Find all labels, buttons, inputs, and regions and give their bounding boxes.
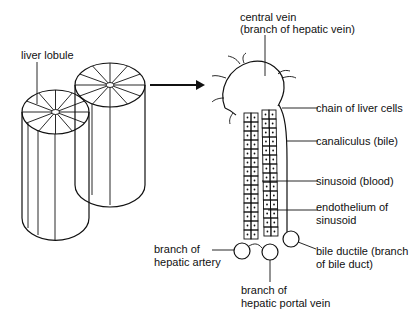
cell-nucleus: [247, 189, 249, 191]
cell-nucleus: [273, 213, 275, 215]
cell-nucleus: [272, 159, 274, 161]
cell-nucleus: [272, 132, 274, 134]
cell-nucleus: [273, 222, 275, 224]
cell-nucleus: [247, 126, 249, 128]
label-liver-lobule: liver lobule: [21, 49, 74, 62]
right-cell-chain: [262, 110, 278, 236]
back-lobule-spokes-central-vein-dot: [106, 83, 114, 88]
label-chain-of-liver-cells: chain of liver cells: [316, 102, 403, 115]
cell-nucleus: [272, 114, 274, 116]
cell-nucleus: [266, 177, 268, 179]
cell-nucleus: [247, 234, 249, 236]
cell-nucleus: [266, 195, 268, 197]
cell-nucleus: [254, 216, 256, 218]
cell-nucleus: [254, 144, 256, 146]
cell-nucleus: [254, 207, 256, 209]
cell-nucleus: [265, 159, 267, 161]
label-bile-ductile: bile ductile (branch: [316, 245, 408, 258]
label-bile-ductile-sub: of bile duct): [316, 258, 373, 271]
cell-nucleus: [247, 153, 249, 155]
cell-nucleus: [265, 132, 267, 134]
cell-chains: [244, 110, 278, 239]
label-hepatic-artery: branch of: [154, 243, 200, 256]
label-endothelium-sub: sinusoid: [316, 214, 356, 227]
label-portal-vein: branch of: [241, 284, 287, 297]
cell-nucleus: [272, 150, 274, 152]
cell-nucleus: [254, 234, 256, 236]
label-hepatic-artery-sub: hepatic artery: [154, 256, 221, 269]
portal-vein-branch: [262, 244, 278, 260]
cell-nucleus: [254, 198, 256, 200]
cell-nucleus: [254, 171, 256, 173]
bile-ductile: [283, 231, 299, 247]
cell-nucleus: [247, 162, 249, 164]
front-lobule-spokes-central-vein-dot: [52, 110, 60, 115]
cell-nucleus: [247, 207, 249, 209]
cell-nucleus: [266, 204, 268, 206]
front-cylinder: [22, 90, 89, 240]
label-portal-vein-sub: hepatic portal vein: [241, 297, 330, 310]
cell-nucleus: [254, 117, 256, 119]
cell-nucleus: [247, 225, 249, 227]
cell-nucleus: [273, 177, 275, 179]
cell-nucleus: [266, 213, 268, 215]
left-cell-chain: [244, 113, 258, 239]
cell-nucleus: [254, 135, 256, 137]
cell-nucleus: [274, 231, 276, 233]
bile-ductile-leader: [298, 242, 316, 249]
cell-nucleus: [254, 126, 256, 128]
cell-nucleus: [254, 162, 256, 164]
cell-nucleus: [247, 180, 249, 182]
arrow-icon: [150, 80, 205, 90]
cell-nucleus: [273, 195, 275, 197]
cell-nucleus: [265, 123, 267, 125]
label-central-vein-sub: (branch of hepatic vein): [240, 23, 355, 36]
cell-nucleus: [267, 231, 269, 233]
cell-nucleus: [265, 141, 267, 143]
cell-nucleus: [247, 198, 249, 200]
cell-nucleus: [273, 168, 275, 170]
cell-nucleus: [266, 222, 268, 224]
lobule-cylinders: [22, 63, 145, 240]
cell-nucleus: [266, 168, 268, 170]
cell-nucleus: [266, 186, 268, 188]
cell-nucleus: [273, 204, 275, 206]
cell-nucleus: [247, 117, 249, 119]
cell-nucleus: [254, 153, 256, 155]
cell-nucleus: [272, 123, 274, 125]
cell-nucleus: [265, 114, 267, 116]
cell-nucleus: [247, 144, 249, 146]
canaliculus-line: [279, 105, 287, 232]
cell-nucleus: [247, 216, 249, 218]
label-canaliculus: canaliculus (bile): [316, 135, 398, 148]
hepatic-artery-branch: [234, 243, 250, 259]
cell-nucleus: [254, 189, 256, 191]
cell-nucleus: [254, 180, 256, 182]
cell-nucleus: [265, 150, 267, 152]
cell-nucleus: [272, 141, 274, 143]
cell-nucleus: [247, 135, 249, 137]
label-endothelium: endothelium of: [316, 201, 388, 214]
label-sinusoid: sinusoid (blood): [316, 175, 394, 188]
cell-nucleus: [247, 171, 249, 173]
cell-nucleus: [273, 186, 275, 188]
cell-nucleus: [254, 225, 256, 227]
